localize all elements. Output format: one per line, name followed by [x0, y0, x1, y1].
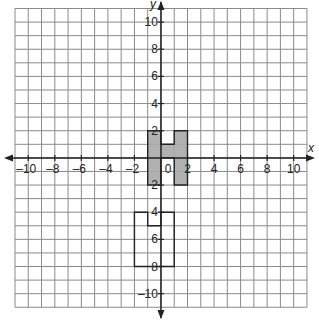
y-axis-label: y [149, 0, 157, 11]
x-tick-label: 10 [287, 162, 301, 176]
y-tick-label: 4 [151, 97, 158, 111]
coordinate-plane: –10–8–6–4–202468101086422468–10xy [0, 0, 319, 320]
y-axis-up-arrow-icon [157, 1, 164, 10]
y-tick-label: 10 [145, 15, 159, 29]
x-tick-label: 6 [237, 162, 244, 176]
x-tick-label: –4 [99, 162, 113, 176]
x-axis-right-arrow-icon [306, 154, 315, 161]
x-tick-label: –6 [73, 162, 87, 176]
x-tick-label: 2 [184, 162, 191, 176]
x-tick-label: 0 [165, 162, 172, 176]
x-tick-label: 8 [264, 162, 271, 176]
y-axis-down-arrow-icon [157, 310, 164, 319]
y-tick-label: 2 [151, 178, 158, 192]
x-tick-label: –8 [46, 162, 60, 176]
y-tick-label: 8 [151, 260, 158, 274]
y-tick-label: 2 [151, 124, 158, 138]
y-tick-label: 6 [151, 69, 158, 83]
y-tick-label: –10 [138, 287, 158, 301]
x-axis-left-arrow-icon [4, 154, 13, 161]
x-axis-label: x [307, 141, 315, 155]
y-tick-label: 6 [151, 232, 158, 246]
x-tick-label: –10 [16, 162, 36, 176]
x-tick-label: 4 [211, 162, 218, 176]
y-tick-label: 8 [151, 42, 158, 56]
y-tick-label: 4 [151, 205, 158, 219]
x-tick-label: –2 [126, 162, 140, 176]
